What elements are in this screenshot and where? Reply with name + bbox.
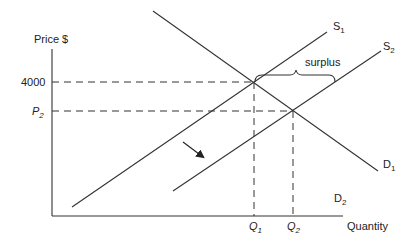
quantity-label-q1: Q1: [249, 220, 262, 235]
quantity-labels: Q1 Q2: [249, 220, 301, 235]
demand-label-d1: D1: [383, 158, 396, 173]
demand-label-d2: D2: [334, 192, 347, 207]
demand-curve-d1: [153, 11, 378, 171]
supply-label-s1: S1: [333, 20, 345, 35]
x-axis-label: Quantity: [347, 220, 388, 232]
supply-curve-s1: [72, 32, 327, 207]
y-axis-label: Price $: [34, 33, 68, 45]
price-label-p2: P2: [32, 105, 44, 120]
supply-label-s2: S2: [383, 40, 395, 55]
supply-curve-s2: [173, 51, 381, 191]
price-labels: 4000 P2: [21, 76, 45, 120]
surplus-label: surplus: [305, 56, 341, 68]
surplus-brace: [255, 70, 335, 82]
quantity-label-q2: Q2: [287, 220, 301, 235]
supply-demand-diagram: Price $ Quantity 4000 P2 Q1 Q2 D1 D2 S1 …: [0, 0, 414, 250]
price-label-4000: 4000: [21, 76, 45, 88]
shift-arrow-icon: [183, 142, 203, 157]
